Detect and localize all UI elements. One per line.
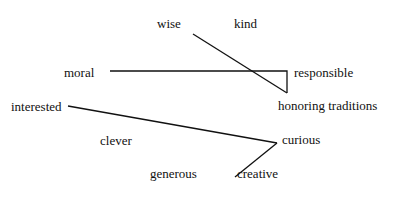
link-wise-honoring <box>193 34 287 93</box>
link-moral-honoring <box>110 71 287 93</box>
word-clever: clever <box>100 134 132 147</box>
word-interested: interested <box>11 100 62 113</box>
word-wise: wise <box>157 17 181 30</box>
word-honoring-traditions: honoring traditions <box>278 99 377 112</box>
word-curious: curious <box>282 133 320 146</box>
word-generous: generous <box>150 167 197 180</box>
word-responsible: responsible <box>294 66 353 79</box>
word-moral: moral <box>64 66 94 79</box>
word-creative: creative <box>237 167 278 180</box>
word-kind: kind <box>234 17 257 30</box>
